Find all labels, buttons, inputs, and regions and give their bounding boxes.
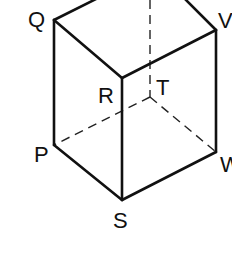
edge-v-top (184, 0, 216, 30)
vertex-label-s: S (113, 208, 128, 233)
edge-s-w (122, 152, 216, 200)
vertex-label-p: P (34, 142, 49, 167)
vertex-label-r: R (98, 83, 114, 108)
edge-r-v (122, 30, 216, 78)
vertex-label-q: Q (28, 7, 45, 32)
vertex-label-v: V (218, 8, 232, 33)
vertex-label-t: T (156, 75, 169, 100)
cube-diagram: Q V R T P W S (0, 0, 232, 275)
vertex-label-w: W (220, 152, 232, 177)
edge-q-top (54, 0, 98, 20)
hidden-edge-t-w (150, 97, 216, 152)
edge-q-r (54, 20, 122, 78)
edge-p-s (54, 145, 122, 200)
